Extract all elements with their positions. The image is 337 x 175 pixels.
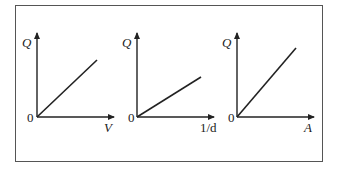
origin-label: 0: [228, 110, 235, 125]
plot-line: [137, 77, 201, 117]
graph-q-vs-v: Q 0 V: [22, 33, 114, 135]
graph-q-vs-a: Q 0 A: [222, 33, 314, 135]
y-axis-label: Q: [222, 35, 232, 50]
plot-line: [237, 48, 296, 117]
origin-label: 0: [27, 110, 34, 125]
x-axis-label: V: [104, 120, 114, 135]
y-axis-label: Q: [122, 35, 132, 50]
plot-line: [37, 60, 97, 117]
y-axis-label: Q: [22, 35, 32, 50]
origin-label: 0: [128, 110, 135, 125]
graphs: Q 0 V Q 0 1/d Q 0 A: [0, 0, 337, 175]
x-axis-label: A: [303, 120, 312, 135]
x-axis-label: 1/d: [200, 120, 217, 135]
graph-q-vs-inv-d: Q 0 1/d: [122, 33, 217, 135]
